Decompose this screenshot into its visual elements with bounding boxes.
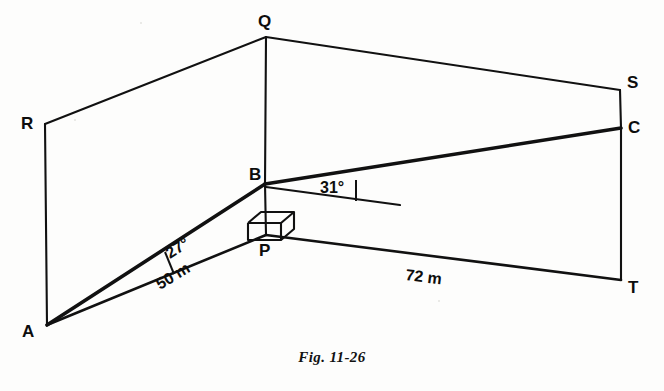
edge-R-Q	[45, 37, 266, 124]
line-of-sight-B-C	[265, 128, 621, 184]
measure-label-50m: 50 m	[153, 259, 193, 292]
paper-speck	[140, 22, 142, 24]
edge-S-C	[620, 90, 621, 128]
vertex-label-S: S	[627, 73, 638, 92]
vertex-label-Q: Q	[258, 12, 271, 31]
vertex-label-P: P	[259, 241, 270, 260]
lines-of-sight	[47, 128, 621, 325]
edge-Q-S	[266, 37, 620, 90]
vertex-label-C: C	[628, 118, 640, 137]
edge-B-P	[265, 184, 266, 235]
angle-label-31: 31°	[320, 179, 344, 196]
geometry-diagram: A B C P Q R S T 27° 31° 50 m 72 m	[0, 0, 664, 391]
figure-caption: Fig. 11-26	[0, 349, 664, 366]
figure-root: A B C P Q R S T 27° 31° 50 m 72 m Fig. 1…	[0, 0, 664, 391]
line-of-sight-A-B	[47, 184, 265, 325]
ground-edges	[47, 235, 621, 325]
vertex-label-T: T	[628, 278, 639, 297]
measure-label-72m: 72 m	[405, 266, 443, 287]
edge-R-A	[45, 124, 47, 325]
vertex-label-R: R	[21, 114, 33, 133]
vertex-label-B: B	[249, 165, 261, 184]
edge-P-T	[266, 235, 621, 280]
paper-speck	[438, 300, 440, 302]
edge-Q-B	[265, 37, 266, 184]
paper-speck	[74, 119, 76, 121]
vertex-label-A: A	[22, 322, 34, 341]
